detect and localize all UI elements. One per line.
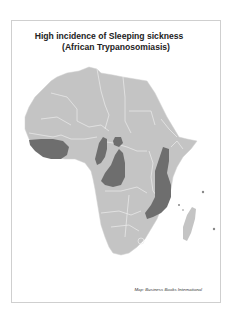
africa-map [12, 21, 222, 304]
map-frame: High incidence of Sleeping sickness (Afr… [11, 20, 221, 303]
island [182, 209, 184, 211]
island [213, 228, 215, 230]
island [202, 191, 204, 193]
map-credit: Map: Business Books International [134, 287, 202, 292]
zone-west-africa [29, 139, 69, 159]
island [178, 204, 180, 206]
madagascar [183, 207, 196, 241]
